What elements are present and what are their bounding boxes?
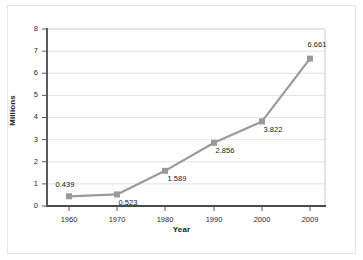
- y-tick-label-7: 7: [18, 46, 38, 55]
- data-point-1960: [66, 193, 72, 199]
- data-point-1980: [162, 168, 168, 174]
- x-tick-label-1970: 1970: [97, 215, 137, 224]
- data-label-2000: 3.822: [253, 125, 293, 134]
- y-tick-label-1: 1: [18, 179, 38, 188]
- data-label-1980: 1.589: [157, 174, 197, 183]
- y-tick-label-4: 4: [18, 112, 38, 121]
- x-axis-title: Year: [0, 225, 363, 234]
- chart-figure: 8 7 6 5 4 3 2 1 0 1960 1970 1980 1990 20…: [0, 0, 363, 260]
- y-tick-label-5: 5: [18, 90, 38, 99]
- y-tick-label-2: 2: [18, 157, 38, 166]
- data-point-1970: [114, 191, 120, 197]
- x-tick-label-1990: 1990: [194, 215, 234, 224]
- x-tick-label-2009: 2009: [290, 215, 330, 224]
- x-tick-label-1960: 1960: [49, 215, 89, 224]
- data-label-1990: 2.856: [205, 146, 245, 155]
- x-tick-label-2000: 2000: [242, 215, 282, 224]
- y-tick-label-6: 6: [18, 68, 38, 77]
- data-point-2009: [307, 56, 313, 62]
- y-tick-label-0: 0: [18, 201, 38, 210]
- data-point-2000: [259, 118, 265, 124]
- x-tick-label-1980: 1980: [145, 215, 185, 224]
- data-label-1960: 0.439: [45, 180, 85, 189]
- y-axis-title: Millions: [8, 81, 17, 141]
- data-label-2009: 6.661: [297, 40, 337, 49]
- y-tick-label-3: 3: [18, 135, 38, 144]
- data-label-1970: 0.523: [108, 198, 148, 207]
- data-point-1990: [211, 140, 217, 146]
- y-tick-label-8: 8: [18, 24, 38, 33]
